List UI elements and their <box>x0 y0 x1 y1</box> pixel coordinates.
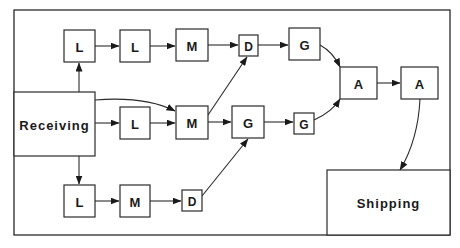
node-bot-m: M <box>120 185 150 217</box>
node-mid-m: M <box>176 106 208 139</box>
node-top-l1: L <box>64 30 95 62</box>
node-label: D <box>188 195 197 209</box>
node-label: A <box>354 77 364 92</box>
shipping-station: Shipping <box>327 170 450 235</box>
node-label: L <box>76 195 84 210</box>
node-label: A <box>415 77 425 92</box>
node-a1: A <box>340 67 377 99</box>
node-label: L <box>131 117 139 132</box>
node-label: G <box>299 38 309 53</box>
receiving-station: Receiving <box>14 92 95 156</box>
receiving-label: Receiving <box>19 118 89 133</box>
node-mid-g2: G <box>294 113 314 134</box>
arrow-mid-g2-to-a1 <box>314 99 340 120</box>
node-a2: A <box>401 67 438 99</box>
node-label: G <box>243 116 253 131</box>
arrow-a2-to-shipping <box>400 99 420 170</box>
node-bot-l: L <box>64 185 95 217</box>
node-mid-l: L <box>120 107 150 139</box>
node-top-g: G <box>289 28 320 60</box>
node-top-m: M <box>176 29 208 61</box>
node-bot-d: D <box>182 190 202 211</box>
node-top-d: D <box>239 35 258 56</box>
arrow-bot-d-to-mid-g1 <box>202 139 248 196</box>
process-flow-diagram: ReceivingShipping LLMDGLMGGAALMD <box>0 0 460 248</box>
node-mid-g1: G <box>232 106 264 138</box>
node-label: M <box>187 39 198 54</box>
arrow-top-g-to-a1 <box>320 45 340 67</box>
node-top-l2: L <box>120 30 150 62</box>
node-label: L <box>131 40 139 55</box>
node-label: L <box>76 40 84 55</box>
node-label: D <box>244 40 253 54</box>
node-label: M <box>187 116 198 131</box>
node-label: G <box>299 118 308 132</box>
node-label: M <box>130 195 141 210</box>
shipping-label: Shipping <box>357 196 421 211</box>
